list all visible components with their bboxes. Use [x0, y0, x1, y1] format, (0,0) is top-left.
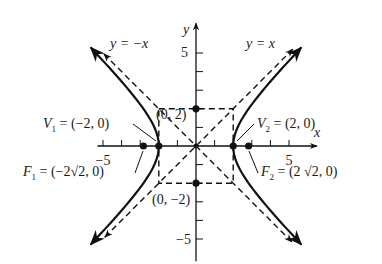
point-v1	[155, 142, 162, 149]
vertex-label-v1: V1 = (−2, 0)	[43, 116, 110, 134]
point-v2	[230, 142, 237, 149]
labels: x y −5 5 5 −5 y = x y = −x (0, 2) (0, −2…	[22, 22, 338, 247]
point-b2	[192, 180, 199, 187]
y-tick-label: −5	[176, 232, 191, 247]
origin-point	[194, 144, 199, 149]
point-f2	[245, 142, 252, 149]
leader-f1	[135, 151, 143, 173]
focus-label-f2: F2 = (2 √2, 0)	[260, 164, 338, 182]
y-tick-label: 5	[181, 45, 188, 60]
point-b1	[192, 105, 199, 112]
asymptote-line	[104, 54, 292, 242]
diagram-canvas: x y −5 5 5 −5 y = x y = −x (0, 2) (0, −2…	[0, 0, 382, 264]
label-letter: F	[260, 164, 270, 179]
asymptote-label-y-equals-x: y = x	[244, 36, 276, 51]
label-value: = (2 √2, 0)	[274, 164, 338, 180]
point-f1	[140, 142, 147, 149]
point-label-0-2: (0, 2)	[156, 107, 187, 123]
label-value: = (2, 0)	[270, 116, 316, 132]
vertex-label-v2: V2 = (2, 0)	[257, 116, 316, 134]
y-axis-label: y	[181, 22, 190, 37]
leader-f2	[249, 151, 258, 173]
label-value: = (−2, 0)	[56, 116, 109, 132]
hyperbola-diagram: x y −5 5 5 −5 y = x y = −x (0, 2) (0, −2…	[0, 0, 382, 264]
focus-label-f1: F1 = (−2√2, 0)	[22, 164, 104, 182]
point-label-0-neg2: (0, −2)	[152, 192, 191, 208]
leader-v2	[237, 124, 254, 141]
asymptote-label-y-equals-neg-x: y = −x	[108, 36, 149, 51]
label-value: = (−2√2, 0)	[36, 164, 104, 180]
label-letter: F	[22, 164, 32, 179]
asymptote-line	[105, 49, 293, 237]
leader-v1	[133, 124, 156, 141]
